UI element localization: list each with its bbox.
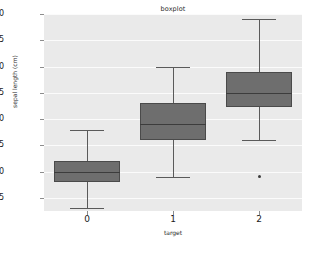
boxplot-figure: boxplot sepal length (cm) target 4.55.05…	[0, 0, 312, 253]
y-tick-label: 5.5	[0, 141, 4, 149]
x-tick-mark	[259, 211, 260, 215]
whisker-lower	[173, 140, 174, 177]
x-tick-label: 0	[67, 214, 107, 224]
median-line	[226, 93, 292, 94]
y-axis-label: sepal length (cm)	[11, 22, 18, 142]
whisker-lower	[259, 107, 260, 140]
y-tick-mark	[40, 145, 44, 146]
x-axis-label: target	[44, 229, 302, 236]
median-line	[54, 172, 120, 173]
y-tick-mark	[40, 119, 44, 120]
gridline	[44, 198, 302, 199]
gridline	[44, 40, 302, 41]
x-tick-mark	[173, 211, 174, 215]
chart-title: boxplot	[44, 4, 302, 14]
plot-area	[44, 14, 302, 211]
whisker-cap-upper	[242, 19, 276, 20]
whisker-upper	[173, 67, 174, 104]
y-tick-mark	[40, 40, 44, 41]
y-tick-label: 6.5	[0, 89, 4, 97]
x-tick-mark	[87, 211, 88, 215]
box-rect	[226, 72, 292, 107]
x-tick-label: 1	[153, 214, 193, 224]
y-tick-label: 7.5	[0, 36, 4, 44]
y-tick-mark	[40, 14, 44, 15]
x-tick-label: 2	[239, 214, 279, 224]
whisker-cap-upper	[156, 67, 190, 68]
gridline	[44, 14, 302, 15]
whisker-upper	[259, 19, 260, 72]
y-tick-mark	[40, 93, 44, 94]
y-tick-label: 6.0	[0, 115, 4, 123]
y-tick-label: 7.0	[0, 63, 4, 71]
whisker-cap-lower	[242, 140, 276, 141]
whisker-cap-lower	[156, 177, 190, 178]
y-tick-mark	[40, 198, 44, 199]
box-rect	[140, 103, 206, 140]
y-tick-mark	[40, 172, 44, 173]
y-tick-label: 8.0	[0, 10, 4, 18]
median-line	[140, 124, 206, 125]
y-tick-label: 4.5	[0, 194, 4, 202]
y-tick-mark	[40, 67, 44, 68]
whisker-cap-lower	[70, 208, 104, 209]
y-tick-label: 5.0	[0, 168, 4, 176]
whisker-upper	[87, 130, 88, 162]
whisker-cap-upper	[70, 130, 104, 131]
whisker-lower	[87, 182, 88, 208]
outlier-point	[258, 175, 261, 178]
